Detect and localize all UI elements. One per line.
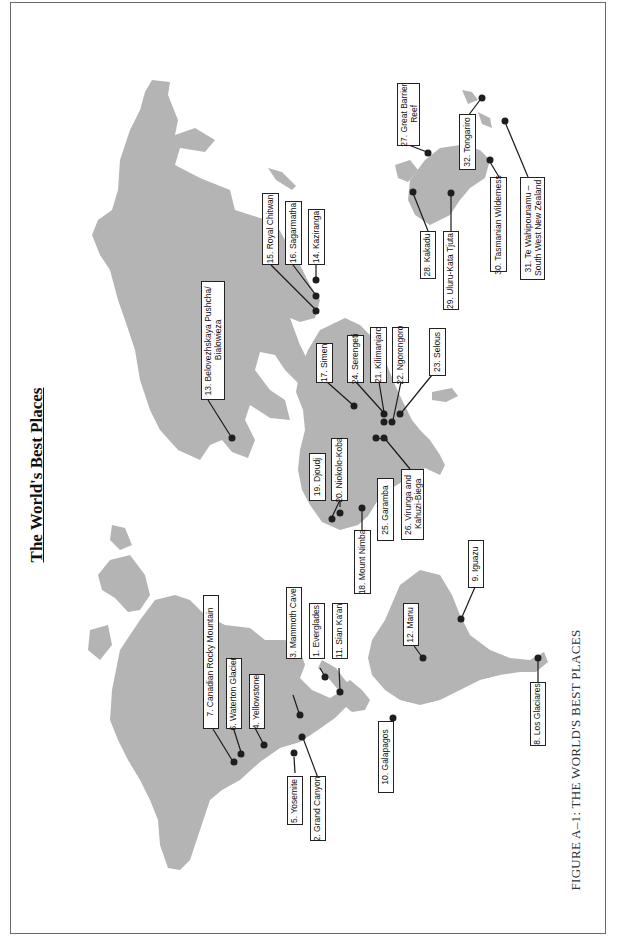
place-label-30: 30. Tasmanian Wilderness: [490, 177, 507, 272]
marker-7: [231, 759, 238, 766]
place-label-13: 13. Belovezhskaya Pushcha/ Bialowieza: [201, 281, 225, 400]
place-label-14: 14. Kaziranga: [308, 209, 325, 265]
place-label-24: 24. Serengeti: [347, 335, 364, 383]
marker-8: [535, 655, 542, 662]
place-label-28: 28. Kakadu: [420, 231, 436, 279]
place-label-25: 25. Garamba: [377, 478, 394, 541]
place-label-7: 7. Canadian Rocky Mountain: [203, 595, 219, 729]
marker-4: [261, 742, 268, 749]
marker-17: [351, 403, 358, 410]
marker-29: [448, 190, 455, 197]
marker-15: [313, 308, 320, 315]
place-label-5: 5. Yosemite: [287, 776, 303, 825]
marker-9: [458, 616, 465, 623]
marker-21: [381, 419, 388, 426]
marker-23: [397, 411, 404, 418]
marker-30: [487, 157, 494, 164]
place-label-26: 26. Virunga and Kahuzi-Biega: [401, 469, 424, 540]
marker-19: [329, 516, 336, 523]
place-label-15: 15. Royal Chitwan: [262, 193, 279, 265]
place-label-3: 3. Mammoth Cave: [286, 587, 302, 659]
marker-25: [373, 435, 380, 442]
place-label-1: 1. Everglades: [309, 603, 325, 659]
marker-32: [479, 95, 486, 102]
marker-14: [313, 277, 320, 284]
place-label-9: 9. Iguazu: [468, 540, 484, 588]
place-label-12: 12. Manu: [403, 603, 419, 646]
place-label-8: 8. Los Glaciares: [530, 682, 546, 746]
place-label-19: 19. Djoudj: [309, 453, 326, 501]
marker-26: [381, 435, 388, 442]
marker-1: [322, 674, 329, 681]
marker-6: [238, 751, 245, 758]
marker-20: [337, 510, 344, 517]
place-label-2: 2. Grand Canyon: [310, 776, 326, 841]
marker-12: [420, 655, 427, 662]
place-label-23: 23. Selous: [429, 328, 446, 376]
marker-2: [299, 734, 306, 741]
place-label-18: 18. Mount Nimba: [354, 530, 371, 594]
marker-31: [502, 118, 509, 125]
marker-11: [337, 689, 344, 696]
place-label-22: 22. Ngorongoro: [392, 327, 409, 383]
place-label-11: 11. Sian Ka'an: [332, 603, 348, 659]
place-label-4: 4. Yellowstone: [249, 674, 265, 729]
place-label-32: 32. Tongariro: [459, 114, 476, 170]
place-label-17: 17. Simen: [316, 343, 333, 383]
marker-5: [291, 750, 298, 757]
place-label-27: 27. Great Barrier Reef: [397, 83, 420, 146]
place-label-31: 31. Te Wahipounamu – South West New Zeal…: [520, 177, 545, 280]
marker-28: [410, 189, 417, 196]
marker-16: [313, 293, 320, 300]
place-label-20: 20. Niokolo-Koba: [331, 438, 348, 501]
place-label-6: 6. Waterton Glacier: [226, 658, 242, 729]
place-label-16: 16. Sagarmatha: [285, 201, 302, 265]
marker-3: [297, 712, 304, 719]
marker-13: [229, 435, 236, 442]
marker-22: [389, 419, 396, 426]
marker-18: [359, 505, 366, 512]
marker-27: [425, 150, 432, 157]
place-label-29: 29. Uluru-Kata Tjuta: [443, 231, 459, 310]
place-label-10: 10. Galapagos: [378, 721, 394, 793]
place-label-21: 21. Kilimanjaro: [370, 327, 387, 383]
